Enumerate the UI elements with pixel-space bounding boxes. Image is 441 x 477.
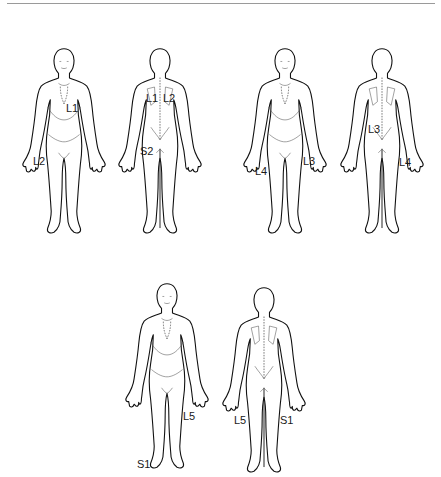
body-back-figure-3 (222, 275, 306, 477)
body-front-figure-1 (22, 36, 106, 244)
body-back-figure-2 (340, 36, 424, 244)
dermatome-label-l4: L4 (255, 166, 267, 177)
dermatome-label-l5: L5 (183, 411, 195, 422)
dermatome-label-s1: S1 (137, 459, 150, 470)
body-front-figure-3 (125, 271, 209, 477)
body-back-figure-1 (118, 36, 202, 244)
dermatome-label-s2: S2 (140, 146, 153, 157)
body-front-figure-2 (243, 36, 327, 244)
dermatome-label-l5: L5 (234, 415, 246, 426)
dermatome-label-l2: L2 (163, 93, 175, 104)
dermatome-label-l3: L3 (303, 156, 315, 167)
dermatome-label-l3: L3 (368, 124, 380, 135)
top-divider (7, 3, 435, 4)
dermatome-label-l2: L2 (33, 156, 45, 167)
dermatome-label-s1: S1 (280, 415, 293, 426)
dermatome-label-l1: L1 (146, 93, 158, 104)
dermatome-label-l1: L1 (66, 103, 78, 114)
dermatome-label-l4: L4 (399, 157, 411, 168)
